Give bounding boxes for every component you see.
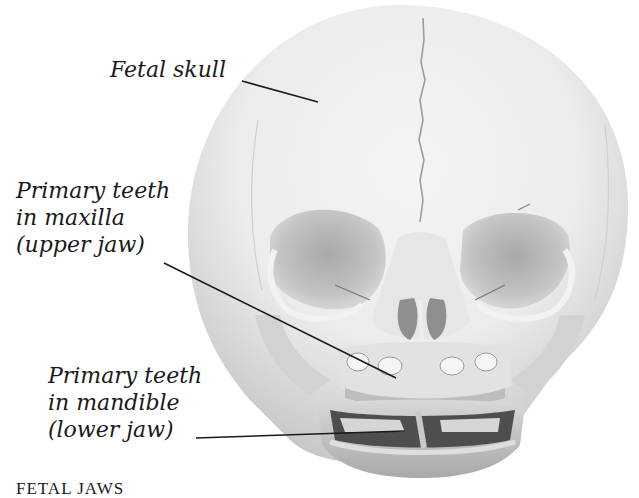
- label-mandible-line-1: Primary teeth: [48, 362, 202, 389]
- maxilla: [338, 342, 512, 407]
- figure-caption: FETAL JAWS: [16, 479, 124, 498]
- label-fetal-skull-text: Fetal skull: [110, 56, 226, 83]
- label-maxilla-line-2: in maxilla: [16, 204, 170, 231]
- label-maxilla-line-3: (upper jaw): [16, 231, 170, 258]
- label-maxilla-line-1: Primary teeth: [16, 177, 170, 204]
- label-mandible-line-3: (lower jaw): [48, 416, 202, 443]
- label-mandible-line-2: in mandible: [48, 389, 202, 416]
- mandible: [318, 400, 525, 478]
- label-maxilla-teeth: Primary teeth in maxilla (upper jaw): [16, 177, 170, 258]
- label-fetal-skull: Fetal skull: [110, 56, 226, 83]
- label-mandible-teeth: Primary teeth in mandible (lower jaw): [48, 362, 202, 443]
